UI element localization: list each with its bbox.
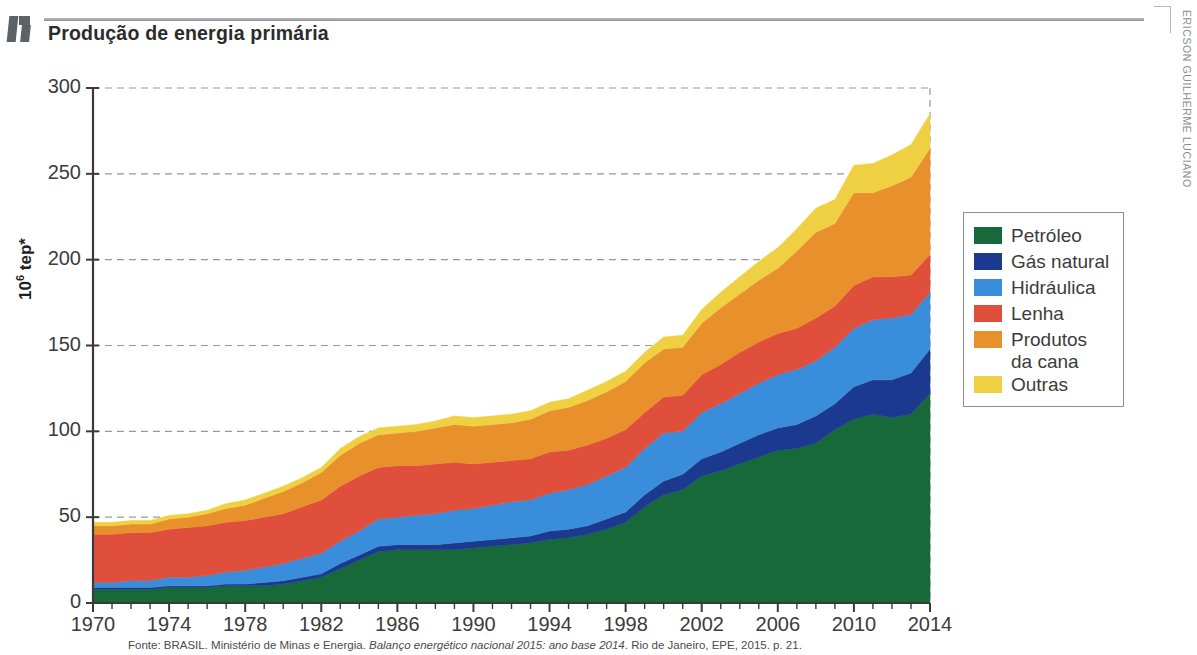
legend-label: Produtos [1011, 330, 1087, 349]
legend-label: Petróleo [1011, 226, 1082, 245]
y-tick-label: 100 [25, 418, 81, 441]
x-tick-label: 2014 [895, 613, 965, 636]
x-tick-label: 1994 [515, 613, 585, 636]
legend-swatch-icon [974, 253, 1002, 270]
x-tick-label: 1982 [286, 613, 356, 636]
legend-label: Hidráulica [1011, 278, 1095, 297]
x-tick-label: 1970 [58, 613, 128, 636]
x-tick-label: 1978 [210, 613, 280, 636]
legend-item-outras[interactable]: Outras [974, 371, 1109, 397]
legend-swatch-icon [974, 331, 1002, 348]
chart-legend: PetróleoGás naturalHidráulicaLenhaProdut… [963, 212, 1124, 407]
x-tick-label: 2002 [667, 613, 737, 636]
x-tick-label: 1974 [134, 613, 204, 636]
legend-swatch-icon [974, 279, 1002, 296]
x-tick-label: 1986 [362, 613, 432, 636]
legend-item-g-s-natural[interactable]: Gás natural [974, 248, 1109, 274]
legend-item-petr-leo[interactable]: Petróleo [974, 222, 1109, 248]
source-caption: Fonte: BRASIL. Ministério de Minas e Ene… [128, 639, 802, 651]
y-tick-label: 200 [25, 247, 81, 270]
legend-item-produtos[interactable]: Produtos [974, 326, 1109, 352]
legend-label: Outras [1011, 375, 1068, 394]
legend-item-lenha[interactable]: Lenha [974, 300, 1109, 326]
y-tick-label: 50 [25, 504, 81, 527]
x-tick-label: 1998 [591, 613, 661, 636]
legend-swatch-icon [974, 376, 1002, 393]
legend-swatch-icon [974, 305, 1002, 322]
y-tick-label: 300 [25, 75, 81, 98]
y-tick-label: 150 [25, 333, 81, 356]
legend-swatch-icon [974, 227, 1002, 244]
x-tick-label: 2010 [819, 613, 889, 636]
source-suffix: . Rio de Janeiro, EPE, 2015. p. 21. [625, 639, 802, 651]
y-tick-label: 0 [25, 590, 81, 613]
source-title: Balanço energético nacional 2015: ano ba… [369, 639, 625, 651]
legend-label-continuation: da cana [1011, 352, 1109, 371]
x-tick-label: 1990 [438, 613, 508, 636]
y-tick-label: 250 [25, 161, 81, 184]
legend-item-hidr-ulica[interactable]: Hidráulica [974, 274, 1109, 300]
source-prefix: Fonte: BRASIL. Ministério de Minas e Ene… [128, 639, 369, 651]
legend-label: Lenha [1011, 304, 1064, 323]
x-tick-label: 2006 [743, 613, 813, 636]
legend-label: Gás natural [1011, 252, 1109, 271]
